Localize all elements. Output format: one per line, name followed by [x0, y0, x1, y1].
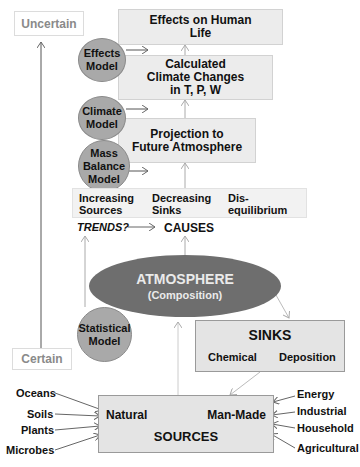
- effects-on-human-life-box: Effects on Human Life: [118, 9, 283, 45]
- disequilibrium: Dis- equilibrium: [228, 192, 287, 216]
- input-household: Household: [297, 422, 354, 434]
- effects-model-line-1: Effects: [84, 47, 121, 60]
- decreasing-sinks: Decreasing Sinks: [152, 192, 211, 216]
- decreasing-sinks-line-2: Sinks: [152, 204, 211, 216]
- projection-line-2: Future Atmosphere: [132, 141, 242, 154]
- input-energy: Energy: [297, 388, 334, 400]
- certain-label: Certain: [12, 348, 72, 370]
- atmosphere-subtitle: (Composition): [148, 288, 223, 302]
- sources-man-made: Man-Made: [207, 408, 266, 422]
- input-industrial: Industrial: [297, 405, 347, 417]
- decreasing-sinks-line-1: Decreasing: [152, 192, 211, 204]
- input-agricultural: Agricultural: [297, 442, 359, 454]
- increasing-sources: Increasing Sources: [79, 192, 134, 216]
- mass-balance-line-3: Model: [88, 173, 120, 186]
- increasing-sources-line-2: Sources: [79, 204, 134, 216]
- climate-model-line-1: Climate: [82, 105, 122, 118]
- input-soils: Soils: [27, 408, 53, 420]
- climate-changes-line-3: in T, P, W: [170, 84, 221, 97]
- climate-model-circle: Climate Model: [78, 96, 126, 140]
- mass-balance-model-circle: Mass Balance Model: [78, 140, 130, 192]
- sources-natural: Natural: [106, 408, 147, 422]
- statistical-model-line-2: Model: [89, 335, 121, 348]
- sources-box: Natural Man-Made SOURCES: [98, 395, 274, 453]
- sinks-title: SINKS: [196, 327, 344, 343]
- atmosphere-ellipse: ATMOSPHERE (Composition): [89, 255, 281, 317]
- mass-balance-line-2: Balance: [83, 160, 125, 173]
- disequilibrium-line-1: Dis-: [228, 192, 287, 204]
- input-plants: Plants: [21, 424, 54, 436]
- sources-title: SOURCES: [99, 429, 273, 444]
- effects-model-line-2: Model: [86, 60, 118, 73]
- projection-box: Projection to Future Atmosphere: [118, 118, 256, 163]
- input-oceans: Oceans: [16, 387, 56, 399]
- input-microbes: Microbes: [6, 444, 54, 456]
- statistical-model-line-1: Statistical: [79, 322, 131, 335]
- trends-label: TRENDS?: [77, 221, 129, 233]
- causes-band: Increasing Sources Decreasing Sinks Dis-…: [72, 188, 307, 218]
- effects-model-circle: Effects Model: [78, 38, 126, 82]
- statistical-model-circle: Statistical Model: [77, 307, 132, 362]
- mass-balance-line-1: Mass: [90, 147, 118, 160]
- sinks-chemical: Chemical: [208, 351, 257, 363]
- sinks-box: SINKS Chemical Deposition: [195, 320, 345, 372]
- causes-label: CAUSES: [164, 221, 214, 235]
- effects-life-line-2: Life: [190, 27, 211, 40]
- disequilibrium-line-2: equilibrium: [228, 204, 287, 216]
- atmosphere-title: ATMOSPHERE: [136, 271, 234, 288]
- projection-line-1: Projection to: [150, 128, 223, 141]
- sinks-deposition: Deposition: [279, 351, 336, 363]
- climate-changes-box: Calculated Climate Changes in T, P, W: [118, 55, 273, 100]
- climate-model-line-2: Model: [86, 118, 118, 131]
- uncertain-label: Uncertain: [14, 11, 84, 36]
- increasing-sources-line-1: Increasing: [79, 192, 134, 204]
